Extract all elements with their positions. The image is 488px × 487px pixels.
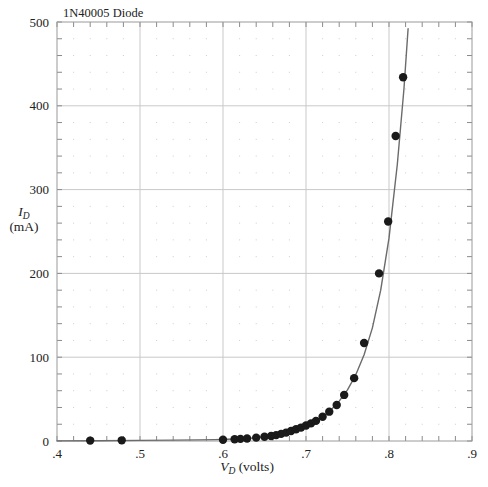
chart-background — [0, 0, 488, 487]
x-tick-label: .4 — [52, 446, 62, 461]
y-tick-label: 200 — [30, 266, 50, 281]
y-tick-label: 0 — [43, 434, 50, 449]
y-axis-label-units: (mA) — [9, 219, 38, 234]
y-tick-label: 400 — [30, 98, 50, 113]
x-tick-label: .7 — [301, 446, 311, 461]
y-tick-label: 300 — [30, 182, 50, 197]
x-axis-label: VD (volts) — [220, 459, 274, 476]
figure-container: .4.5.6.7.8.9 0100200300400500 1N40005 Di… — [0, 0, 488, 487]
y-tick-label: 500 — [30, 15, 50, 30]
diode-iv-chart: .4.5.6.7.8.9 0100200300400500 1N40005 Di… — [0, 0, 488, 487]
x-tick-label: .9 — [467, 446, 477, 461]
chart-title: 1N40005 Diode — [63, 6, 144, 20]
x-tick-label: .5 — [135, 446, 145, 461]
y-tick-label: 100 — [30, 350, 50, 365]
x-tick-label: .8 — [384, 446, 394, 461]
